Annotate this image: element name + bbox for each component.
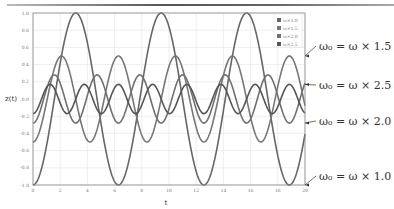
- y-tick-label: 0.0: [22, 97, 29, 102]
- y-tick-label: 0.8: [22, 28, 29, 33]
- x-axis-label: t: [165, 199, 168, 207]
- x-tick-label: 12: [193, 188, 199, 193]
- legend: ω×1.0ω×1.5ω×2.0ω×2.5: [274, 14, 302, 47]
- annotation-label: ω₀ = ω × 1.5: [319, 40, 391, 53]
- annotations: ω₀ = ω × 1.5ω₀ = ω × 2.5ω₀ = ω × 2.0ω₀ =…: [305, 40, 391, 187]
- legend-entry: ω×1.0: [283, 18, 298, 23]
- x-tick-label: 6: [113, 188, 116, 193]
- y-tick-label: 0.4: [22, 62, 29, 67]
- y-tick-label: -0.4: [20, 131, 29, 136]
- y-tick-label: 1.0: [22, 11, 29, 16]
- y-tick-label: -0.6: [20, 148, 29, 153]
- y-tick-label: 0.6: [22, 45, 29, 50]
- x-tick-label: 14: [221, 188, 227, 193]
- y-tick-label: 0.2: [22, 79, 29, 84]
- x-tick-label: 4: [86, 188, 89, 193]
- x-tick-label: 10: [166, 188, 172, 193]
- y-tick-label: -0.2: [20, 114, 29, 119]
- annotation-label: ω₀ = ω × 1.0: [319, 170, 391, 183]
- x-tick-label: 8: [140, 188, 143, 193]
- x-tick-label: 20: [302, 188, 308, 193]
- legend-entry: ω×2.0: [283, 34, 298, 39]
- x-tick-label: 2: [59, 188, 62, 193]
- line-chart: 024681012141618201.00.80.60.40.20.0-0.2-…: [0, 0, 394, 209]
- x-tick-label: 16: [248, 188, 254, 193]
- legend-entry: ω×1.5: [283, 26, 298, 31]
- annotation-label: ω₀ = ω × 2.0: [319, 115, 391, 128]
- x-tick-label: 18: [275, 188, 281, 193]
- annotation-label: ω₀ = ω × 2.5: [319, 79, 391, 92]
- x-tick-label: 0: [32, 188, 35, 193]
- legend-entry: ω×2.5: [283, 42, 298, 47]
- y-tick-label: -0.8: [20, 165, 29, 170]
- y-tick-label: -1.0: [20, 183, 29, 188]
- y-axis-label: z(t): [5, 95, 17, 103]
